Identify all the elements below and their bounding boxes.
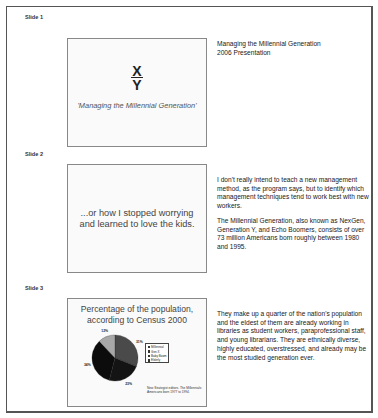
slide-1-notes-line-2: 2006 Presentation [217,49,369,58]
chart-title: Percentage of the population, according … [68,304,206,325]
slide-2-notes: I don't really intend to teach a new man… [217,176,369,252]
slide-1-notes-line-1: Managing the Millennial Generation [217,40,369,49]
slide-1-subtitle: 'Managing the Millennial Generation' [68,101,206,110]
legend-label: Millennial [151,345,164,349]
xy-fraction-logo: X Y [68,65,206,92]
slide-2-line-1: ...or how I stopped worrying [68,208,206,219]
legend-swatch [148,359,151,362]
pie-label: 31% [136,340,143,344]
slide-3-notes-paragraph-1: They make up a quarter of the nation's p… [217,310,369,362]
slide-3-label: Slide 3 [25,285,43,291]
slide-1-label: Slide 1 [25,14,43,20]
legend-item: Elderly [148,358,167,362]
pie-label: 34% [84,363,91,367]
legend-label: Elderly [151,358,160,362]
slide-2-label: Slide 2 [25,151,43,157]
pie-label: 23% [125,382,132,386]
slide-3-thumbnail: Percentage of the population, according … [67,298,207,407]
slide-2-text: ...or how I stopped worrying and learned… [68,208,206,230]
legend-swatch [148,350,151,353]
slide-2-thumbnail: ...or how I stopped worrying and learned… [67,164,207,273]
chart-legend: MillennialGen XBaby BoomElderly [145,343,169,363]
pie-chart [91,334,139,382]
pie-label: 12% [101,329,108,333]
legend-label: Gen X [151,350,160,354]
slide-1-notes: Managing the Millennial Generation 2006 … [217,40,369,57]
slide-1-thumbnail: X Y 'Managing the Millennial Generation' [67,38,207,147]
legend-label: Baby Boom [151,354,167,358]
y-letter: Y [68,79,206,92]
legend-swatch [148,346,151,349]
chart-title-line-2: according to Census 2000 [68,315,206,326]
slide-3-notes: They make up a quarter of the nation's p… [217,310,369,362]
chart-source-note: New Strategist editors. The Millennials:… [147,386,203,394]
slide-2-line-2: and learned to love the kids. [68,219,206,230]
legend-swatch [148,355,151,358]
slide-2-notes-paragraph-2: The Millennial Generation, also known as… [217,217,369,252]
chart-title-line-1: Percentage of the population, [68,304,206,315]
slide-2-notes-paragraph-1: I don't really intend to teach a new man… [217,176,369,211]
